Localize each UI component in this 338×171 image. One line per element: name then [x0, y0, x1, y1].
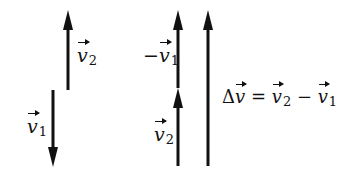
vector-symbol: v [318, 88, 328, 106]
vector-symbol: v [159, 46, 170, 65]
arrow-v2-left [63, 10, 73, 90]
arrow-v1-left [48, 90, 58, 167]
vector-symbol: v [235, 88, 245, 106]
minus-sign: − [291, 86, 318, 107]
equals-sign: = [245, 86, 272, 107]
arrow-v2-middle [173, 88, 183, 166]
label-v2-middle: v2 [154, 125, 174, 146]
arrow-delta-v [203, 10, 213, 166]
vector-symbol: v [27, 117, 38, 136]
label-v1-left: v1 [27, 117, 47, 138]
vector-symbol: v [272, 88, 282, 106]
vector-symbol: v [77, 46, 88, 65]
label-neg-v1: −v1 [143, 46, 179, 67]
label-v2-left: v2 [77, 46, 97, 67]
equation-delta-v: Δv = v2 − v1 [222, 88, 337, 108]
vector-symbol: v [154, 125, 165, 144]
delta-symbol: Δ [222, 86, 235, 107]
